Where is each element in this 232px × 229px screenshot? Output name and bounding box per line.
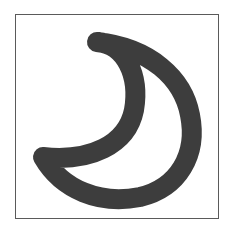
crescent-moon-icon [0, 0, 232, 229]
moon-outline [43, 42, 192, 199]
